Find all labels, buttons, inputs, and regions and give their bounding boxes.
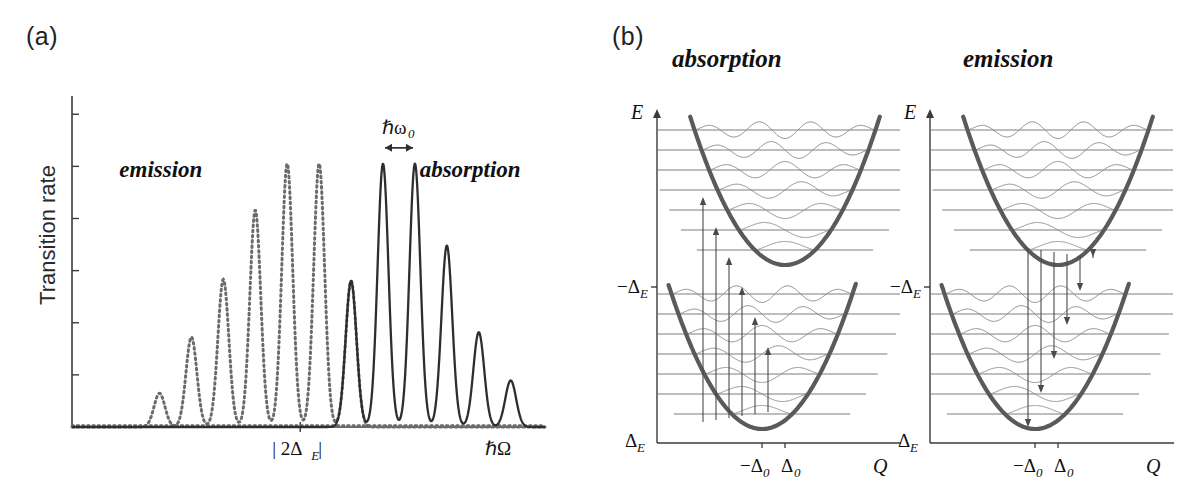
x-tick-minus-delta-0-sub: 0 — [763, 465, 770, 480]
x-tick-minus-delta-0-sub: 0 — [1036, 465, 1043, 480]
y-tick-minus-delta-e: −Δ — [890, 276, 913, 297]
phonon-energy-label-sub: 0 — [408, 126, 415, 141]
panel-a-curves — [72, 164, 545, 427]
y-tick-delta-e-sub: E — [909, 440, 918, 455]
y-axis-label-E: E — [903, 101, 916, 123]
wavefunction-ground-0 — [732, 406, 792, 415]
panel-a-x-axis-label: ℏΩ — [485, 438, 511, 459]
potential-parabolas — [942, 117, 1153, 429]
emission-region-label: emission — [119, 157, 202, 182]
x-tick-gap-label: | 2Δ — [272, 438, 302, 459]
phonon-energy-label: ℏω — [382, 117, 407, 138]
absorption-region-label: absorption — [420, 157, 521, 182]
panel-a-axes — [72, 96, 545, 432]
panel-b-emission-diagram: E−ΔEΔE−Δ0Δ0Q — [878, 75, 1178, 492]
emission-arrowhead-4 — [1077, 283, 1083, 291]
absorption-arrowhead-4 — [752, 317, 758, 325]
wavefunction-excited-2 — [1000, 204, 1115, 219]
emission-arrowhead-3 — [1064, 317, 1070, 325]
wavefunction-ground-0 — [1005, 406, 1065, 415]
wavefunction-ground-2 — [704, 368, 819, 383]
x-tick-delta-0-sub: 0 — [794, 465, 801, 480]
y-tick-delta-e-sub: E — [636, 440, 645, 455]
panel-b-label: (b) — [612, 22, 644, 51]
x-tick-delta-0-sub: 0 — [1067, 465, 1074, 480]
y-tick-minus-delta-e-sub: E — [912, 286, 921, 301]
x-tick-delta-0: Δ — [781, 455, 793, 476]
panel-b-right-title: emission — [963, 45, 1053, 73]
energy-levels — [658, 130, 900, 414]
wavefunction-ground-2 — [977, 368, 1092, 383]
y-tick-minus-delta-e: −Δ — [617, 276, 640, 297]
y-tick-minus-delta-e-sub: E — [639, 286, 648, 301]
energy-levels — [931, 130, 1173, 414]
panel-a-spectrum: emissionabsorptionℏω0| 2ΔE |ℏΩ — [0, 0, 560, 492]
panel-b-absorption-diagram: E−ΔEΔE−Δ0Δ0Q — [605, 75, 905, 492]
wavefunction-excited-0 — [1028, 242, 1088, 251]
y-tick-delta-e: Δ — [625, 430, 637, 451]
absorption-arrowhead-0 — [700, 197, 706, 205]
y-axis-label-E: E — [630, 101, 643, 123]
panel-b-left-title: absorption — [672, 45, 782, 73]
emission-arrowhead-2 — [1051, 351, 1057, 359]
emission-arrowhead-5 — [1090, 249, 1096, 257]
x-tick-gap-label-end: | — [318, 438, 322, 459]
x-tick-delta-0: Δ — [1054, 455, 1066, 476]
absorption-arrowhead-1 — [713, 227, 719, 235]
wavefunction-excited-0 — [755, 242, 815, 251]
ground-state-parabola — [942, 284, 1129, 429]
x-tick-minus-delta-0: −Δ — [1013, 455, 1036, 476]
x-axis-label-Q: Q — [1146, 455, 1161, 477]
wavefunction-excited-2 — [727, 204, 842, 219]
y-tick-delta-e: Δ — [898, 430, 910, 451]
ground-state-parabola — [669, 284, 856, 429]
potential-parabolas — [669, 117, 880, 429]
transition-arrows — [1025, 248, 1096, 427]
absorption-arrowhead-3 — [739, 287, 745, 295]
absorption-arrowhead-2 — [726, 257, 732, 265]
x-tick-minus-delta-0: −Δ — [740, 455, 763, 476]
emission-arrowhead-1 — [1038, 385, 1044, 393]
